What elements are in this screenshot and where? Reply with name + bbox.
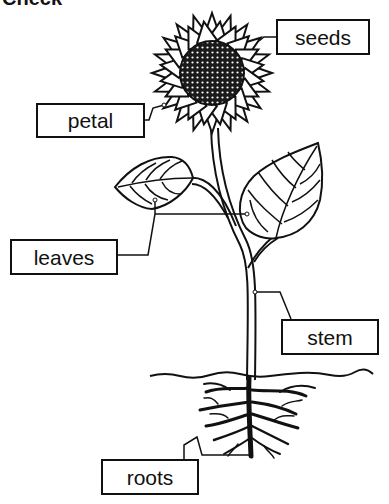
label-stem: stem [281,319,379,355]
seed-disk [180,41,244,105]
leader-petal [145,105,164,120]
ground-line [150,369,373,377]
label-roots: roots [101,459,199,495]
flower-head [152,13,272,133]
sunflower-diagram: Check [0,0,389,504]
label-petal: petal [36,103,145,138]
stem-drawing [211,128,256,380]
leader-stem [255,292,291,319]
right-leaf [240,143,322,239]
label-seeds: seeds [276,19,370,55]
label-leaves: leaves [10,239,118,275]
roots-drawing [200,378,315,458]
leader-roots [184,437,252,459]
